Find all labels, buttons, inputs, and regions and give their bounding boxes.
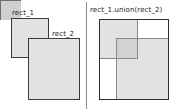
- ghost-edge-rect-1-bottom: [100, 58, 138, 59]
- ghost-edge-rect-2-top: [116, 38, 168, 39]
- label-rect-1: rect_1: [12, 9, 34, 17]
- shape-union-overlap-region: [116, 38, 138, 59]
- ghost-edge-rect-1-right: [137, 20, 138, 59]
- ghost-edge-rect-2-left: [116, 38, 117, 99]
- panel-divider: [86, 2, 87, 109]
- rectangle-union-figure: rect_1 rect_2 rect_1.union(rect_2): [0, 0, 181, 111]
- label-union-expression: rect_1.union(rect_2): [90, 6, 162, 14]
- shape-rect-2: [28, 38, 80, 100]
- label-rect-2: rect_2: [52, 30, 74, 38]
